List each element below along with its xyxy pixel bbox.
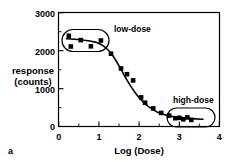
y-axis-ticks xyxy=(59,13,64,127)
data-point xyxy=(125,72,130,77)
data-point xyxy=(99,38,104,43)
high-dose-label: high-dose xyxy=(173,95,214,105)
y-tick-label-0: 0 xyxy=(50,122,55,132)
figure-panel: 3000 2000 1000 0 0 1 2 3 4 Log (Dose) re… xyxy=(0,0,231,163)
panel-label: a xyxy=(8,146,14,156)
data-point xyxy=(159,111,164,116)
dose-response-chart: 3000 2000 1000 0 0 1 2 3 4 Log (Dose) re… xyxy=(0,0,231,163)
data-point xyxy=(131,78,136,83)
x-axis-title: Log (Dose) xyxy=(114,145,164,156)
data-markers xyxy=(67,34,194,123)
data-point xyxy=(143,100,148,105)
data-point xyxy=(173,116,178,121)
y-tick-label-2000: 2000 xyxy=(35,47,55,57)
data-point xyxy=(185,115,190,120)
x-tick-label-2: 2 xyxy=(137,132,142,142)
data-point xyxy=(69,44,74,49)
x-tick-label-1: 1 xyxy=(96,132,101,142)
data-point xyxy=(89,44,94,49)
y-axis-title-line1: response xyxy=(12,65,54,76)
data-point xyxy=(177,116,182,121)
data-point xyxy=(189,118,194,123)
x-tick-label-4: 4 xyxy=(217,132,222,142)
x-tick-label-3: 3 xyxy=(177,132,182,142)
y-axis-title-line2: (counts) xyxy=(14,76,51,87)
data-point xyxy=(181,117,186,122)
data-point xyxy=(79,38,84,43)
x-tick-label-0: 0 xyxy=(56,132,61,142)
data-point xyxy=(139,95,144,100)
data-point xyxy=(119,66,124,71)
data-point xyxy=(67,34,72,39)
data-point xyxy=(109,51,114,56)
x-axis-ticks xyxy=(59,122,220,127)
y-tick-label-3000: 3000 xyxy=(35,9,55,19)
low-dose-label: low-dose xyxy=(114,24,151,34)
data-point xyxy=(151,106,156,111)
